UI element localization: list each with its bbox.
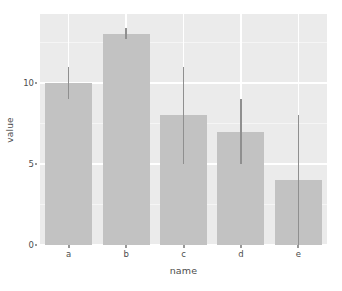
y-axis-ticks: 0510 — [16, 0, 34, 291]
errorbar-d — [240, 99, 242, 164]
x-tick-label-d: d — [238, 249, 243, 259]
y-tick-label-10: 10 — [16, 78, 34, 88]
errorbar-e — [298, 115, 300, 245]
plot-panel — [40, 14, 327, 245]
y-axis-title-label: value — [5, 117, 15, 143]
x-axis-title-label: name — [170, 265, 198, 276]
x-axis-ticks: abcde — [40, 245, 327, 265]
x-axis-title: name — [40, 265, 327, 276]
x-tick-mark — [126, 245, 127, 248]
errorbar-c — [183, 67, 185, 164]
x-tick-mark — [183, 245, 184, 248]
bar-chart: value 0510 abcde name — [0, 0, 342, 291]
errorbar-b — [125, 28, 127, 39]
x-tick-mark — [68, 245, 69, 248]
y-tick-mark — [35, 245, 38, 246]
x-tick-label-c: c — [181, 249, 186, 259]
errorbar-a — [68, 67, 70, 99]
x-tick-mark — [240, 245, 241, 248]
x-tick-label-e: e — [296, 249, 301, 259]
y-tick-label-5: 5 — [16, 159, 34, 169]
x-tick-label-b: b — [123, 249, 128, 259]
y-tick-label-0: 0 — [16, 240, 34, 250]
bar-a — [45, 83, 92, 245]
y-tick-mark — [35, 82, 38, 83]
x-tick-label-a: a — [66, 249, 71, 259]
bar-b — [103, 34, 150, 245]
x-tick-mark — [298, 245, 299, 248]
y-tick-mark — [35, 163, 38, 164]
